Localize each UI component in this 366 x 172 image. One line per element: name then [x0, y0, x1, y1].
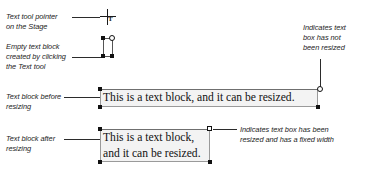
- before-handle-top-right-circle[interactable]: [317, 86, 323, 92]
- callout-block-after-resizing: Text block after resizing: [6, 134, 90, 154]
- text-tool-t-glyph: T: [108, 16, 113, 23]
- callout-line: resizing: [6, 144, 90, 154]
- callout-line: the Text tool: [6, 62, 92, 72]
- text-tool-pointer-icon: T: [100, 9, 118, 27]
- leader-line-resized: [213, 129, 237, 130]
- handle-bottom-right[interactable]: [110, 54, 114, 58]
- handle-top-left[interactable]: [101, 36, 105, 40]
- text-block-before-resizing[interactable]: This is a text block, and it can be resi…: [100, 89, 318, 107]
- after-handle-bottom-right[interactable]: [208, 160, 212, 164]
- leader-line-pointer: [72, 17, 100, 18]
- callout-not-resized: Indicates text box has not been resized: [303, 23, 365, 54]
- callout-line: Indicates text: [303, 23, 365, 33]
- text-block-after-resizing[interactable]: This is a text block, and it can be resi…: [100, 129, 210, 162]
- after-handle-top-right-square[interactable]: [207, 126, 212, 131]
- leader-line-block-after: [64, 139, 102, 140]
- callout-block-before-resizing: Text block before resizing: [6, 92, 90, 112]
- leader-line-empty-block: [72, 57, 103, 58]
- empty-text-block[interactable]: [101, 36, 117, 60]
- figure-canvas: Text tool pointer on the Stage T Empty t…: [0, 0, 366, 172]
- text-block-line: This is a text block, and it can be resi…: [101, 90, 317, 106]
- text-block-line: and it can be resized.: [101, 146, 209, 162]
- callout-line: box has not: [303, 33, 365, 43]
- callout-line: resized and has a fixed width: [240, 135, 366, 145]
- callout-line: Indicates text box has been: [240, 125, 366, 135]
- handle-bottom-left[interactable]: [101, 54, 105, 58]
- after-handle-top-left[interactable]: [98, 127, 102, 131]
- handle-top-right-circle[interactable]: [109, 35, 115, 41]
- before-handle-top-left[interactable]: [98, 87, 102, 91]
- callout-line: on the Stage: [6, 22, 86, 32]
- callout-line: been resized: [303, 43, 365, 53]
- callout-line: resizing: [6, 102, 90, 112]
- callout-line: Empty text block: [6, 42, 92, 52]
- callout-text-tool-pointer: Text tool pointer on the Stage: [6, 12, 86, 32]
- text-block-line: This is a text block,: [101, 130, 209, 146]
- callout-resized-fixed-width: Indicates text box has been resized and …: [240, 125, 366, 145]
- before-handle-bottom-right[interactable]: [316, 105, 320, 109]
- before-handle-bottom-left[interactable]: [98, 105, 102, 109]
- after-handle-bottom-left[interactable]: [98, 160, 102, 164]
- leader-line-block-before: [64, 97, 102, 98]
